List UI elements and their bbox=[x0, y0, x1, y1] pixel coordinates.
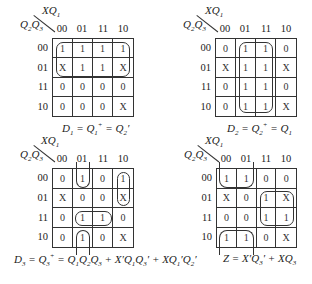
col-label: 00 bbox=[52, 23, 72, 34]
cell: 0 bbox=[257, 169, 277, 189]
row-variable-label: Q2Q3 bbox=[183, 18, 206, 33]
cell: X bbox=[276, 228, 296, 248]
cell: X bbox=[276, 97, 296, 116]
cell: 0 bbox=[276, 39, 296, 58]
col-label: 10 bbox=[276, 153, 296, 164]
cell: 0 bbox=[53, 169, 73, 189]
cell: 0 bbox=[113, 208, 133, 228]
grouping-loop bbox=[260, 191, 294, 226]
cell: 0 bbox=[237, 189, 257, 209]
col-label: 01 bbox=[72, 23, 92, 34]
cell: 0 bbox=[237, 208, 257, 228]
grouping-loop bbox=[239, 42, 273, 113]
col-variable-label: XQ1 bbox=[205, 134, 223, 149]
cell: 0 bbox=[93, 189, 113, 209]
row-label: 00 bbox=[191, 42, 211, 53]
row-label: 11 bbox=[192, 212, 212, 223]
cell: X bbox=[53, 189, 73, 209]
row-variable-label: Q2Q3 bbox=[20, 148, 43, 163]
row-label: 11 bbox=[28, 212, 48, 223]
row-label: 01 bbox=[28, 192, 48, 203]
row-label: 11 bbox=[191, 81, 211, 92]
cell: X bbox=[216, 58, 236, 77]
equation-caption: D2 = Q2+ = Q1 bbox=[227, 121, 292, 137]
col-label: 11 bbox=[256, 23, 276, 34]
grouping-loop bbox=[56, 42, 130, 77]
cell: 0 bbox=[53, 78, 73, 97]
col-label: 10 bbox=[113, 23, 133, 34]
col-label: 01 bbox=[235, 23, 255, 34]
row-variable-label: Q2Q3 bbox=[184, 148, 207, 163]
col-label: 11 bbox=[93, 23, 113, 34]
cell: 0 bbox=[93, 78, 113, 97]
cell: 0 bbox=[93, 228, 113, 248]
row-label: 10 bbox=[28, 101, 48, 112]
cell: 0 bbox=[276, 169, 296, 189]
row-label: 01 bbox=[191, 62, 211, 73]
row-label: 11 bbox=[28, 81, 48, 92]
col-variable-label: XQ1 bbox=[41, 134, 59, 149]
cell: 0 bbox=[73, 97, 93, 116]
cell: X bbox=[276, 58, 296, 77]
cell: 0 bbox=[53, 97, 73, 116]
row-label: 01 bbox=[192, 192, 212, 203]
cell: 0 bbox=[53, 228, 73, 248]
col-variable-label: XQ1 bbox=[205, 4, 223, 19]
col-label: 11 bbox=[93, 153, 113, 164]
cell: 0 bbox=[73, 189, 93, 209]
cell: X bbox=[113, 228, 133, 248]
row-label: 00 bbox=[28, 42, 48, 53]
grouping-loop bbox=[75, 211, 112, 226]
cell: 0 bbox=[113, 78, 133, 97]
cell: 0 bbox=[216, 97, 236, 116]
cell: 0 bbox=[216, 39, 236, 58]
row-label: 00 bbox=[28, 172, 48, 183]
col-variable-label: XQ1 bbox=[42, 4, 60, 19]
row-label: 01 bbox=[28, 62, 48, 73]
row-label: 10 bbox=[191, 101, 211, 112]
row-variable-label: Q2Q3 bbox=[20, 18, 43, 33]
row-label: 10 bbox=[192, 231, 212, 242]
grouping-loop bbox=[117, 172, 130, 206]
col-label: 00 bbox=[215, 23, 235, 34]
equation-caption: D3 = Q3+ = Q1Q2Q3 + X′Q1Q3′ + XQ1′Q2′ bbox=[14, 252, 197, 268]
cell: 0 bbox=[217, 208, 237, 228]
col-label: 11 bbox=[256, 153, 276, 164]
cell: 0 bbox=[73, 78, 93, 97]
row-label: 10 bbox=[28, 231, 48, 242]
cell: 0 bbox=[93, 97, 113, 116]
cell: 0 bbox=[93, 169, 113, 189]
cell: 0 bbox=[53, 208, 73, 228]
grouping-loop-wrap-top bbox=[219, 162, 254, 188]
col-label: 10 bbox=[276, 23, 296, 34]
cell: X bbox=[113, 97, 133, 116]
cell: 0 bbox=[216, 78, 236, 97]
cell: X bbox=[217, 189, 237, 209]
equation-caption: D1 = Q1+ = Q2′ bbox=[62, 121, 129, 137]
row-label: 00 bbox=[192, 172, 212, 183]
grouping-loop-wrap-top bbox=[76, 162, 90, 188]
cell: 0 bbox=[276, 78, 296, 97]
col-label: 00 bbox=[52, 153, 72, 164]
col-label: 10 bbox=[113, 153, 133, 164]
cell: 0 bbox=[257, 228, 277, 248]
equation-caption: Z = X′Q3′ + XQ3 bbox=[223, 252, 296, 267]
